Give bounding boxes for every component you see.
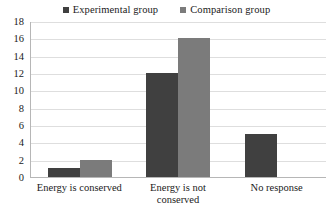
y-axis-tick-label: 18 (14, 17, 25, 27)
y-axis-tick-label: 6 (19, 121, 24, 131)
legend-swatch-experimental-icon (63, 7, 69, 13)
x-axis-category-label: Energy is not conserved (129, 182, 228, 206)
x-axis-category-label: Energy is conserved (30, 182, 129, 206)
y-axis-tick-label: 10 (14, 86, 25, 96)
bar (178, 38, 210, 177)
chart-legend: Experimental group Comparison group (0, 4, 333, 15)
y-axis-tick-label: 4 (19, 138, 24, 148)
bar (146, 73, 178, 177)
legend-label-comparison-group: Comparison group (190, 4, 270, 15)
bar (80, 160, 112, 177)
bar-group (228, 22, 326, 177)
bar-group (31, 22, 129, 177)
y-axis-tick-label: 0 (19, 173, 24, 183)
y-axis-tick-label: 12 (14, 69, 25, 79)
legend-item-comparison-group: Comparison group (180, 4, 270, 15)
axis-baseline (31, 177, 326, 178)
plot-area (30, 22, 326, 178)
y-axis: 024681012141618 (0, 22, 28, 178)
y-axis-tick-label: 14 (14, 52, 25, 62)
legend-swatch-comparison-icon (180, 7, 186, 13)
bar (48, 168, 80, 177)
bar-chart: Experimental group Comparison group 0246… (0, 0, 333, 215)
legend-item-experimental-group: Experimental group (63, 4, 158, 15)
legend-label-experimental-group: Experimental group (73, 4, 158, 15)
bars-layer (31, 22, 326, 177)
x-axis-category-label: No response (227, 182, 326, 206)
x-axis: Energy is conservedEnergy is not conserv… (30, 182, 326, 206)
bar (245, 134, 277, 177)
y-axis-tick-label: 2 (19, 156, 24, 166)
plot-wrapper: 024681012141618 (0, 22, 333, 182)
y-axis-tick-label: 8 (19, 104, 24, 114)
bar-group (129, 22, 227, 177)
y-axis-tick-label: 16 (14, 34, 25, 44)
